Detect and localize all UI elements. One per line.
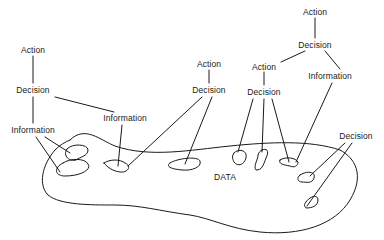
- node-decision-left: Decision: [16, 85, 49, 95]
- node-decision-top: Decision: [298, 40, 331, 50]
- node-decision-mid: Decision: [192, 85, 225, 95]
- data-region-label: DATA: [214, 172, 236, 182]
- connector-lines: [0, 0, 384, 240]
- data-blob-1: [56, 159, 88, 176]
- node-decision-right: Decision: [247, 87, 280, 97]
- diagram-canvas: Action Decision Action Decision Informat…: [0, 0, 384, 240]
- data-blob-5: [233, 150, 247, 165]
- node-action-top: Action: [303, 7, 327, 17]
- data-blob-3: [104, 160, 129, 172]
- node-decision-far-right: Decision: [339, 131, 372, 141]
- data-blob-6: [255, 149, 268, 170]
- node-information-left: Information: [11, 125, 55, 135]
- node-action-mid: Action: [197, 59, 221, 69]
- data-blob-4: [168, 158, 200, 170]
- data-region-outline: [42, 134, 357, 233]
- node-action-right: Action: [252, 62, 276, 72]
- node-information-mid: Information: [103, 113, 147, 123]
- data-blob-9: [305, 196, 319, 208]
- node-action-left: Action: [21, 45, 45, 55]
- node-information-right: Information: [308, 71, 352, 81]
